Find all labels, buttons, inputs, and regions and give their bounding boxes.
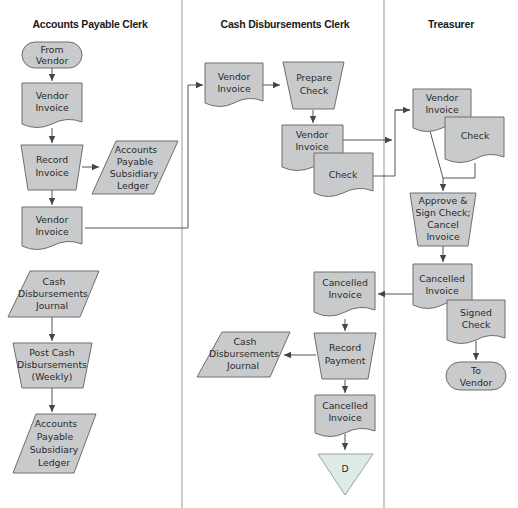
svg-text:Cancelled: Cancelled	[322, 400, 368, 411]
svg-text:Payable: Payable	[117, 156, 154, 167]
svg-text:Invoice: Invoice	[217, 83, 251, 94]
svg-text:Signed: Signed	[460, 307, 492, 318]
svg-text:Ledger: Ledger	[38, 457, 70, 468]
svg-text:Invoice: Invoice	[426, 231, 460, 242]
node-ap-vendor-invoice-2: Vendor Invoice	[22, 207, 82, 250]
svg-text:Vendor: Vendor	[460, 377, 493, 388]
svg-text:Post Cash: Post Cash	[29, 347, 74, 358]
svg-text:Check: Check	[461, 130, 490, 141]
svg-text:Cancelled: Cancelled	[419, 273, 465, 284]
svg-text:Record: Record	[36, 154, 68, 165]
svg-text:Subsidiary: Subsidiary	[30, 444, 79, 455]
svg-text:Cancelled: Cancelled	[322, 277, 368, 288]
flow-lines	[52, 68, 476, 450]
svg-text:Journal: Journal	[226, 360, 259, 371]
svg-text:Check: Check	[329, 169, 358, 180]
svg-text:Cash: Cash	[43, 276, 66, 287]
svg-text:Vendor: Vendor	[296, 129, 329, 140]
svg-text:To: To	[470, 365, 481, 376]
svg-text:Invoice: Invoice	[328, 412, 362, 423]
node-ap-vendor-invoice-1: Vendor Invoice	[22, 83, 82, 128]
node-post-cash-disbursements: Post Cash Disbursements (Weekly)	[13, 343, 92, 388]
node-tr-check: Check	[445, 117, 504, 163]
svg-text:Sign Check;: Sign Check;	[416, 207, 471, 218]
flowchart-canvas: Accounts Payable Clerk Cash Disbursement…	[0, 0, 518, 508]
svg-text:Vendor: Vendor	[36, 90, 69, 101]
node-record-payment: Record Payment	[314, 333, 376, 379]
svg-text:Accounts: Accounts	[35, 418, 78, 429]
lane-title-treasurer: Treasurer	[428, 18, 474, 30]
svg-text:Invoice: Invoice	[35, 167, 69, 178]
svg-text:Accounts: Accounts	[115, 144, 158, 155]
node-cd-check: Check	[314, 153, 373, 197]
svg-text:From: From	[40, 44, 63, 55]
node-to-vendor: To Vendor	[446, 362, 506, 390]
svg-text:Cash: Cash	[234, 336, 257, 347]
svg-text:Subsidiary: Subsidiary	[110, 168, 159, 179]
lane-title-accounts-payable: Accounts Payable Clerk	[32, 18, 148, 30]
node-ap-ledger-2: Accounts Payable Subsidiary Ledger	[13, 414, 96, 473]
svg-text:Check: Check	[300, 85, 329, 96]
svg-text:Invoice: Invoice	[295, 141, 329, 152]
node-approve-sign-check: Approve & Sign Check; Cancel Invoice	[410, 193, 476, 246]
svg-text:Vendor: Vendor	[218, 71, 251, 82]
node-signed-check: Signed Check	[447, 300, 505, 344]
node-cd-cash-journal: Cash Disbursements Journal	[197, 332, 290, 377]
svg-text:(Weekly): (Weekly)	[32, 371, 73, 382]
node-offpage-connector-d: D	[318, 454, 373, 495]
node-ap-cash-journal: Cash Disbursements Journal	[8, 271, 99, 317]
node-cd-cancelled-invoice-2: Cancelled Invoice	[315, 395, 375, 437]
svg-text:Invoice: Invoice	[35, 102, 69, 113]
svg-text:Prepare: Prepare	[296, 72, 332, 83]
svg-text:Vendor: Vendor	[36, 214, 69, 225]
svg-text:Vendor: Vendor	[426, 92, 459, 103]
svg-text:Journal: Journal	[35, 300, 68, 311]
svg-text:Invoice: Invoice	[328, 289, 362, 300]
svg-text:Cancel: Cancel	[427, 219, 459, 230]
node-prepare-check: Prepare Check	[283, 62, 344, 109]
svg-text:Disbursements: Disbursements	[17, 359, 87, 370]
svg-text:Invoice: Invoice	[35, 226, 69, 237]
svg-text:Invoice: Invoice	[425, 285, 459, 296]
node-cd-cancelled-invoice-1: Cancelled Invoice	[314, 272, 375, 316]
svg-text:Approve &: Approve &	[419, 195, 468, 206]
svg-text:Disbursements: Disbursements	[18, 288, 88, 299]
svg-text:Ledger: Ledger	[117, 180, 149, 191]
node-from-vendor: From Vendor	[22, 42, 82, 68]
svg-text:Invoice: Invoice	[425, 104, 459, 115]
svg-text:Disbursements: Disbursements	[209, 348, 279, 359]
node-record-invoice: Record Invoice	[21, 145, 83, 190]
svg-text:Record: Record	[329, 342, 361, 353]
svg-text:Check: Check	[462, 319, 491, 330]
node-ap-ledger-1: Accounts Payable Subsidiary Ledger	[92, 141, 178, 194]
svg-text:Vendor: Vendor	[36, 55, 69, 66]
lane-title-cash-disbursements: Cash Disbursements Clerk	[221, 18, 350, 30]
svg-text:D: D	[341, 463, 348, 474]
svg-text:Payment: Payment	[325, 355, 366, 366]
node-cd-vendor-invoice-1: Vendor Invoice	[205, 63, 263, 107]
svg-text:Payable: Payable	[37, 431, 74, 442]
